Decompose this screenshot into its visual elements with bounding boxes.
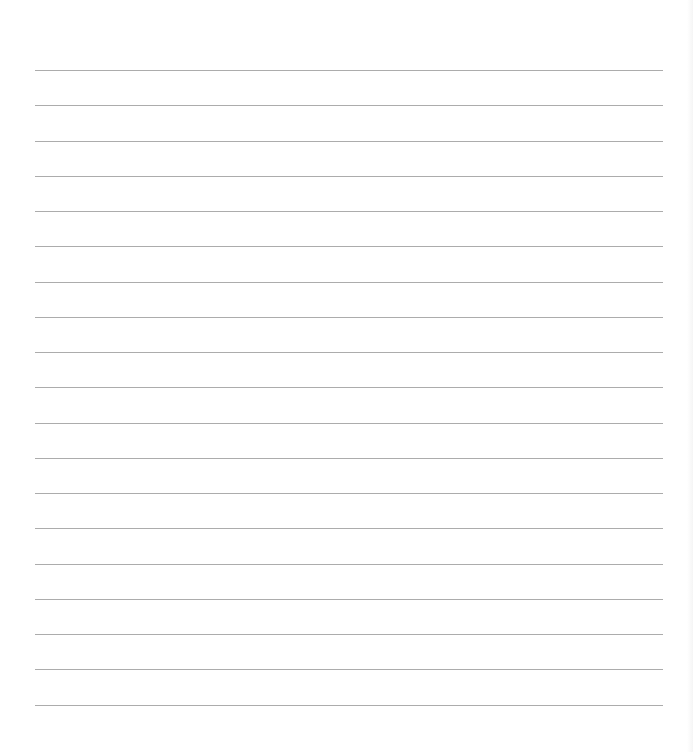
- ruled-line: [35, 141, 663, 142]
- lined-paper-sheet: [0, 0, 693, 752]
- ruled-line: [35, 634, 663, 635]
- ruled-line: [35, 317, 663, 318]
- ruled-line: [35, 493, 663, 494]
- ruled-line: [35, 105, 663, 106]
- ruled-line: [35, 528, 663, 529]
- ruled-line: [35, 564, 663, 565]
- ruled-line: [35, 458, 663, 459]
- ruled-line: [35, 352, 663, 353]
- ruled-line: [35, 70, 663, 71]
- ruled-line: [35, 246, 663, 247]
- ruled-line: [35, 176, 663, 177]
- ruled-line: [35, 705, 663, 706]
- ruled-line: [35, 211, 663, 212]
- ruled-line: [35, 669, 663, 670]
- ruled-line: [35, 599, 663, 600]
- ruled-line: [35, 282, 663, 283]
- ruled-line: [35, 423, 663, 424]
- ruled-line: [35, 387, 663, 388]
- page-edge-shadow: [687, 0, 693, 752]
